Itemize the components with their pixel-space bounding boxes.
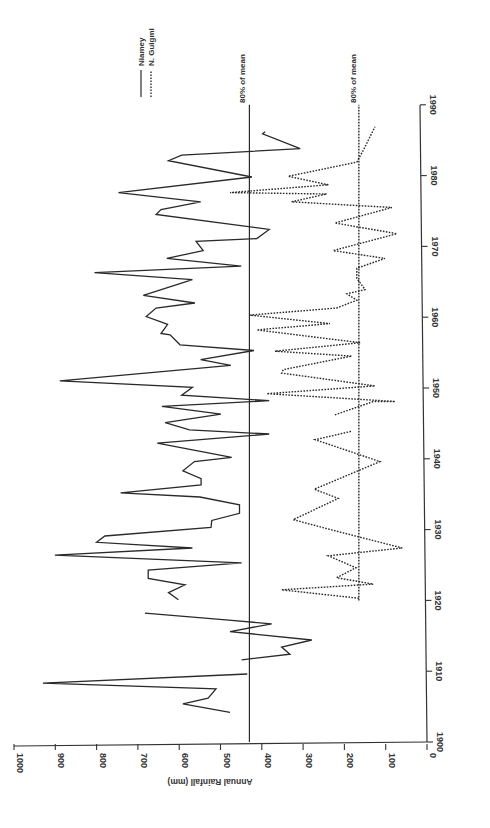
value-tick-label: 1000 [15,753,25,773]
series-line-niamey [145,613,312,660]
rainfall-chart: 01002003004005006007008009001000 1900191… [0,0,490,828]
year-tick-label: 1970 [430,236,440,256]
legend: Niamey N. Guigmi [137,28,156,97]
ref-label-niamey: 80% of mean [238,54,247,103]
year-tick-label: 1990 [428,95,438,115]
value-tick-label: 500 [222,753,232,768]
year-tick-label: 1980 [429,166,439,186]
value-tick-label: 100 [387,753,397,768]
value-tick-label: 200 [345,753,355,768]
y-axis-title: Annual Rainfall (mm) [167,777,252,787]
value-tick-label: 800 [98,753,108,768]
reference-lines [249,105,358,742]
year-axis: 1900191019201930194019501960197019801990 [420,95,445,752]
series-line-guigmi [282,431,403,598]
legend-label-niamey: Niamey [137,37,146,66]
value-tick-label: 700 [139,753,149,768]
series-line-guigmi [230,127,397,415]
value-tick-label: 300 [304,753,314,768]
series-lines [43,127,402,713]
value-tick-label: 600 [180,753,190,768]
value-axis: 01002003004005006007008009001000 [14,742,438,773]
year-tick-label: 1930 [433,520,443,540]
year-tick-label: 1920 [433,590,443,610]
series-line-niamey [43,674,247,712]
ref-label-guigmi: 80% of mean [349,54,358,103]
year-tick-label: 1950 [431,378,441,398]
series-line-niamey [55,132,300,600]
legend-label-guigmi: N. Guigmi [147,28,156,66]
value-tick-label: 0 [428,753,438,758]
year-tick-label: 1900 [435,732,445,752]
year-tick-label: 1940 [432,449,442,469]
year-tick-label: 1960 [430,307,440,327]
value-tick-label: 900 [56,753,66,768]
year-tick-label: 1910 [434,661,444,681]
value-tick-label: 400 [263,753,273,768]
